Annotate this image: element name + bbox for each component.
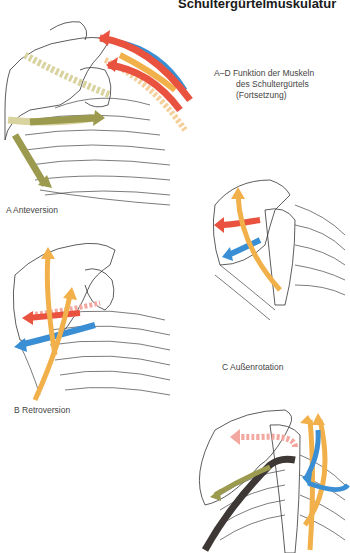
page-title: Schultergürtelmuskulatur — [178, 0, 336, 10]
figure-b-retroversion — [0, 225, 175, 405]
figure-a-label: A Anteversion — [6, 205, 58, 215]
figure-a-anteversion — [0, 10, 200, 210]
figure-caption: A–D Funktion der Muskeln des Schultergür… — [214, 68, 314, 101]
figure-c-aussenrotation — [200, 165, 350, 330]
figure-c-label: C Außenrotation — [222, 362, 283, 372]
caption-line-1: A–D Funktion der Muskeln — [214, 68, 314, 79]
figure-b-label: B Retroversion — [14, 405, 70, 415]
caption-line-3: (Fortsetzung) — [214, 90, 314, 101]
figure-d — [150, 395, 350, 553]
caption-line-2: des Schultergürtels — [214, 79, 314, 90]
